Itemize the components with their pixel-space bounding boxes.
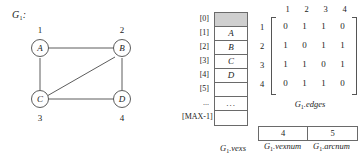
vexs-array-panel: [0] [1] [2] [3] [4] [5] ... [MAX-1] A B … (182, 0, 254, 160)
node-label-a: A (36, 43, 43, 53)
matrix-cell: 0 (276, 17, 295, 36)
vexs-cell: A (215, 27, 247, 41)
matrix-caption-rest: .edges (304, 99, 325, 109)
vexs-index-label: [0] (182, 12, 212, 26)
vexs-index-label: [5] (182, 82, 212, 96)
matrix-cell: 0 (314, 55, 333, 74)
vexs-index-label-max: [MAX-1] (182, 110, 212, 124)
node-label-b: B (119, 43, 125, 53)
node-label-d: D (118, 94, 126, 104)
counters-captions: G1.vexnum G1.arcnum (258, 141, 356, 152)
matrix-row-headers: 1 2 3 4 (256, 16, 268, 95)
matrix-col-header: 4 (335, 4, 354, 14)
matrix-cell: 1 (276, 36, 295, 55)
matrix-cell: 1 (314, 74, 333, 93)
vexs-index-ellipsis: ... (182, 96, 212, 110)
vexs-array-box: A B C D ... (214, 12, 248, 126)
matrix-row: 0 1 1 0 (276, 74, 352, 93)
vexs-index-label: [1] (182, 26, 212, 40)
vexnum-value: 4 (259, 127, 308, 140)
vexnum-caption: G1.vexnum (258, 141, 307, 152)
matrix-row-header: 2 (256, 37, 268, 56)
matrix-cell: 0 (333, 17, 352, 36)
node-index-d: 4 (120, 113, 125, 123)
node-index-b: 2 (120, 25, 125, 35)
vexs-cell (215, 83, 247, 97)
vexs-index-label: [2] (182, 40, 212, 54)
matrix-cell: 1 (295, 74, 314, 93)
matrix-col-header: 2 (297, 4, 316, 14)
vexs-array-caption: G1.vexs (208, 143, 258, 154)
matrix-cell: 1 (333, 55, 352, 74)
arcnum-caption-rest: .arcnum (322, 141, 350, 151)
vexs-cell-ellipsis: ... (215, 97, 247, 111)
matrix-cell: 1 (295, 55, 314, 74)
matrix-row: 0 1 1 0 (276, 17, 352, 36)
matrix-cell: 0 (276, 74, 295, 93)
matrix-col-header: 3 (316, 4, 335, 14)
matrix-cell: 0 (333, 74, 352, 93)
arcnum-value: 5 (308, 127, 357, 140)
matrix-cell: 1 (295, 17, 314, 36)
matrix-grid: 0 1 1 0 1 0 1 1 1 1 0 1 0 (276, 16, 352, 95)
matrix-cell: 1 (276, 55, 295, 74)
matrix-cell: 1 (314, 17, 333, 36)
matrix-col-header: 1 (278, 4, 297, 14)
vexnum-caption-rest: .vexnum (273, 141, 301, 151)
node-index-a: 1 (38, 25, 43, 35)
matrix-row: 1 1 0 1 (276, 55, 352, 74)
edge-c-b (47, 57, 115, 96)
vexs-cell: C (215, 55, 247, 69)
graph-diagram-panel: G1: A B C D 1 2 3 4 (0, 0, 178, 160)
matrix-body: 1 2 3 4 0 1 1 0 1 0 1 1 (256, 16, 357, 95)
matrix-row-header: 4 (256, 75, 268, 94)
matrix-cell: 1 (314, 36, 333, 55)
node-index-c: 3 (38, 113, 43, 123)
vexs-caption-rest: .vexs (229, 143, 246, 153)
vexs-cell (215, 111, 247, 125)
matrix-right-bracket (352, 17, 357, 95)
matrix-row-header: 3 (256, 56, 268, 75)
graph-representation-figure: G1: A B C D 1 2 3 4 [0] [1] (0, 0, 360, 160)
matrix-row-header: 1 (256, 18, 268, 37)
counters-boxes: 4 5 (258, 126, 358, 141)
counters-panel: 4 5 G1.vexnum G1.arcnum (256, 126, 360, 160)
matrix-caption: G1.edges (274, 99, 346, 110)
matrix-column-headers: 1 2 3 4 (278, 4, 354, 14)
vexs-index-label: [3] (182, 54, 212, 68)
vexs-index-label: [4] (182, 68, 212, 82)
node-label-c: C (37, 94, 44, 104)
matrix-cell: 0 (295, 36, 314, 55)
vexs-cell (215, 13, 247, 27)
vexs-cell: B (215, 41, 247, 55)
matrix-row: 1 0 1 1 (276, 36, 352, 55)
arcnum-caption: G1.arcnum (307, 141, 356, 152)
vexs-index-column: [0] [1] [2] [3] [4] [5] ... [MAX-1] (182, 12, 212, 124)
vexs-cell: D (215, 69, 247, 83)
graph-svg-canvas: A B C D 1 2 3 4 (0, 0, 178, 160)
adjacency-matrix-panel: 1 2 3 4 1 2 3 4 0 1 1 0 1 (256, 2, 360, 127)
matrix-cell: 1 (333, 36, 352, 55)
